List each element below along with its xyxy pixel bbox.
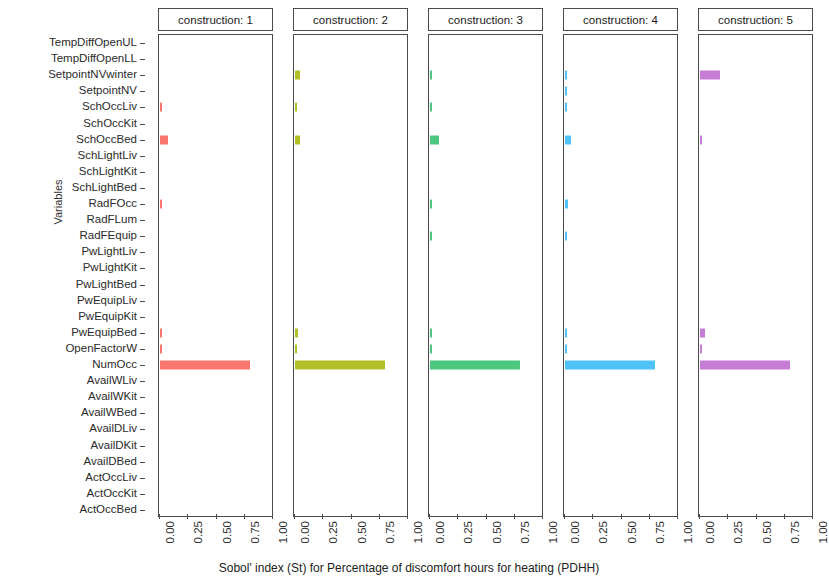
y-tick-label: AvailWKit	[88, 392, 137, 404]
bar	[295, 361, 385, 370]
x-tick-label: 1.00	[412, 521, 424, 543]
y-axis-tick-labels: TempDiffOpenULTempDiffOpenLLSetpointNVwi…	[18, 35, 145, 518]
x-tick-label: 0.00	[299, 521, 311, 543]
x-tick-label: 0.25	[192, 521, 204, 543]
x-tick-label: 1.00	[682, 521, 694, 543]
x-tick-label: 0.25	[327, 521, 339, 543]
y-tick-label: AvailWLiv	[87, 375, 137, 387]
bar	[565, 103, 567, 112]
y-tick-mark	[140, 349, 145, 350]
y-tick-mark	[140, 446, 145, 447]
y-tick-mark	[140, 510, 145, 511]
y-tick-label: TempDiffOpenLL	[51, 53, 137, 65]
bar	[565, 344, 567, 353]
x-tick-mark	[272, 514, 273, 519]
bar	[700, 361, 790, 370]
x-tick-mark	[699, 514, 700, 519]
y-tick-label: TempDiffOpenUL	[49, 37, 137, 49]
facet-panel: construction: 1	[158, 8, 273, 517]
x-tick-label: 0.00	[704, 521, 716, 543]
x-tick-label: 0.50	[491, 521, 503, 543]
facet-strip-label: construction: 1	[158, 8, 273, 31]
plot-area	[698, 34, 813, 517]
facet-strip-label: construction: 5	[698, 8, 813, 31]
y-tick-label: SchOccKit	[83, 118, 137, 130]
y-tick-mark	[140, 236, 145, 237]
facet-panel: construction: 5	[698, 8, 813, 517]
bar	[430, 361, 520, 370]
y-tick-label: AvailDLiv	[89, 424, 137, 436]
y-tick-label: PwEquipKit	[78, 311, 137, 323]
x-tick-mark	[514, 514, 515, 519]
facet-strip-label: construction: 3	[428, 8, 543, 31]
y-tick-mark	[140, 156, 145, 157]
bar	[565, 135, 571, 144]
bar	[430, 103, 432, 112]
y-tick-label: ActOccKit	[87, 488, 137, 500]
x-tick-label: 0.75	[789, 521, 801, 543]
bar	[160, 103, 162, 112]
y-tick-mark	[140, 478, 145, 479]
x-axis: 0.000.250.500.751.00	[293, 514, 408, 580]
x-tick-mark	[649, 514, 650, 519]
x-tick-label: 0.75	[654, 521, 666, 543]
bar	[700, 328, 705, 337]
x-axis: 0.000.250.500.751.00	[428, 514, 543, 580]
x-tick-mark	[486, 514, 487, 519]
y-tick-mark	[140, 397, 145, 398]
x-tick-label: 0.00	[434, 521, 446, 543]
bar	[160, 361, 250, 370]
y-tick-mark	[140, 188, 145, 189]
y-tick-mark	[140, 301, 145, 302]
x-tick-mark	[159, 514, 160, 519]
x-tick-label: 1.00	[817, 521, 829, 543]
y-tick-label: NumOcc	[92, 359, 137, 371]
x-tick-label: 0.50	[356, 521, 368, 543]
plot-area	[563, 34, 678, 517]
y-tick-label: ActOccLiv	[85, 472, 137, 484]
x-tick-mark	[244, 514, 245, 519]
bar	[700, 344, 702, 353]
bar	[700, 71, 720, 80]
x-tick-mark	[351, 514, 352, 519]
y-tick-mark	[140, 462, 145, 463]
x-tick-mark	[216, 514, 217, 519]
x-axis-title: Sobol' index (St) for Percentage of disc…	[0, 561, 818, 575]
x-tick-mark	[429, 514, 430, 519]
y-tick-label: SchLightKit	[79, 166, 137, 178]
bar	[160, 135, 168, 144]
y-tick-label: OpenFactorW	[65, 343, 137, 355]
y-tick-label: SchLightBed	[72, 182, 137, 194]
y-tick-mark	[140, 268, 145, 269]
y-tick-mark	[140, 333, 145, 334]
x-tick-label: 1.00	[277, 521, 289, 543]
y-tick-mark	[140, 204, 145, 205]
bar	[565, 71, 567, 80]
y-tick-mark	[140, 91, 145, 92]
bar	[565, 200, 568, 209]
y-tick-label: RadFOcc	[88, 198, 137, 210]
y-tick-label: PwLightKit	[83, 263, 137, 275]
bar	[295, 344, 297, 353]
x-tick-mark	[457, 514, 458, 519]
y-tick-label: SchOccLiv	[82, 102, 137, 114]
x-tick-label: 0.50	[626, 521, 638, 543]
x-tick-mark	[542, 514, 543, 519]
y-tick-mark	[140, 413, 145, 414]
bar	[430, 200, 432, 209]
x-tick-label: 0.75	[384, 521, 396, 543]
y-tick-mark	[140, 59, 145, 60]
y-tick-label: ActOccBed	[79, 504, 137, 516]
bar	[430, 344, 432, 353]
bar	[565, 328, 567, 337]
bar	[295, 135, 300, 144]
x-tick-mark	[621, 514, 622, 519]
bar	[565, 361, 655, 370]
x-tick-label: 0.00	[569, 521, 581, 543]
bar	[430, 232, 432, 241]
bar	[160, 344, 162, 353]
y-tick-label: SchOccBed	[76, 134, 137, 146]
y-tick-label: AvailWBed	[81, 408, 137, 420]
bar	[565, 87, 567, 96]
y-tick-mark	[140, 494, 145, 495]
